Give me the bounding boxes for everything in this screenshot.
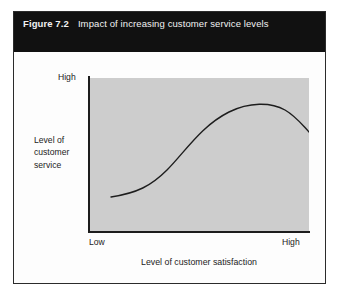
- x-axis-title: Level of customer satisfaction: [89, 257, 309, 267]
- figure-caption-text: Impact of increasing customer service le…: [78, 18, 269, 29]
- y-axis-tick-high: High: [58, 72, 76, 82]
- figure-caption-bar: Figure 7.2Impact of increasing customer …: [14, 12, 325, 52]
- chart-region: High Low High Level of customer service …: [14, 52, 325, 283]
- figure-number-label: Figure 7.2: [23, 18, 69, 29]
- y-axis-title: Level of customer service: [34, 134, 88, 171]
- x-axis-tick-low: Low: [89, 237, 105, 247]
- service-level-curve: [89, 78, 309, 231]
- x-axis-tick-high: High: [282, 237, 300, 247]
- x-axis-line: [88, 231, 310, 233]
- figure-caption: Figure 7.2Impact of increasing customer …: [23, 17, 315, 31]
- figure-frame: Figure 7.2Impact of increasing customer …: [13, 11, 326, 284]
